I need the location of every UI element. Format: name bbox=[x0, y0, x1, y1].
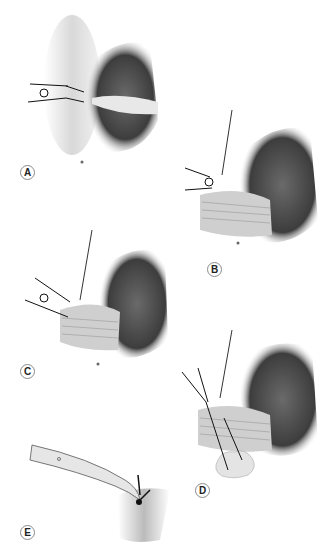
panel-label-b: B bbox=[207, 262, 222, 277]
panel-a: A bbox=[0, 0, 170, 190]
panel-c-illustration bbox=[0, 220, 170, 385]
panel-b: B bbox=[160, 80, 325, 280]
panel-b-illustration bbox=[160, 80, 325, 280]
panel-label-c: C bbox=[20, 364, 35, 379]
panel-label-e: E bbox=[20, 525, 35, 540]
panel-e: E bbox=[0, 430, 200, 556]
panel-label-a: A bbox=[20, 165, 35, 180]
panel-a-illustration bbox=[0, 0, 170, 190]
panel-c: C bbox=[0, 220, 170, 385]
